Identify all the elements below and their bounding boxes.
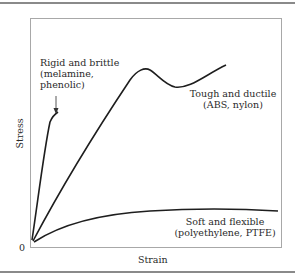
bottom-rule — [0, 271, 295, 273]
tough-label-line2: (ABS, nylon) — [183, 99, 283, 110]
rigid-brittle-label: Rigid and brittle (melamine, phenolic) — [40, 57, 119, 90]
rigid-label-line3: phenolic) — [40, 79, 119, 90]
tough-ductile-label: Tough and ductile (ABS, nylon) — [183, 88, 283, 110]
tough-label-line1: Tough and ductile — [183, 88, 283, 99]
soft-flexible-label: Soft and flexible (polyethylene, PTFE) — [170, 216, 280, 238]
origin-label: 0 — [19, 242, 25, 253]
plot-frame — [31, 19, 282, 248]
x-axis-label: Strain — [138, 254, 168, 265]
rigid-label-line1: Rigid and brittle — [40, 57, 119, 68]
rigid-label-line2: (melamine, — [40, 68, 119, 79]
soft-label-line2: (polyethylene, PTFE) — [170, 227, 280, 238]
rigid-brittle-curve — [32, 112, 58, 240]
soft-label-line1: Soft and flexible — [170, 216, 280, 227]
y-axis-label: Stress — [14, 119, 25, 149]
